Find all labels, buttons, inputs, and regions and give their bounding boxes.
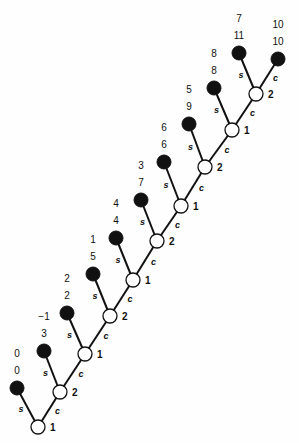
nodes (10, 46, 285, 434)
leaf-node (60, 306, 74, 320)
leaf-node (109, 231, 123, 245)
open-node-label: 1 (97, 349, 103, 360)
edge-label-s: s (93, 291, 98, 301)
edge-label-c: c (225, 145, 230, 155)
leaf-value-bottom: 11 (234, 30, 245, 41)
edge-label-c: c (151, 257, 156, 267)
edge-label-c: c (250, 108, 255, 118)
edge-label-s: s (164, 180, 169, 190)
open-node (103, 309, 117, 323)
open-node (225, 123, 239, 137)
leaf-value-bottom: 2 (64, 290, 70, 301)
leaf-value-bottom: 7 (138, 177, 144, 188)
leaf-node (37, 344, 51, 358)
leaf-value-top: 5 (186, 84, 192, 95)
edge-label-c: c (104, 331, 109, 341)
open-node (174, 199, 188, 213)
leaf-value-top: 10 (272, 19, 284, 30)
leaf-value-top: 2 (64, 273, 70, 284)
open-node (78, 347, 92, 361)
open-node-label: 2 (217, 162, 223, 173)
edge-label-s: s (67, 330, 72, 340)
open-node (198, 160, 212, 174)
open-node (249, 87, 263, 101)
leaf-value-bottom: 0 (14, 365, 20, 376)
leaf-value-top: 4 (113, 198, 119, 209)
open-node (53, 385, 67, 399)
leaf-value-top: 3 (138, 160, 144, 171)
leaf-value-bottom: 10 (272, 36, 284, 47)
edge-label-s: s (116, 255, 121, 265)
edge-label-s: s (140, 217, 145, 227)
leaf-value-top: 6 (161, 122, 167, 133)
leaf-node (157, 155, 171, 169)
tree-svg: cccccccccssssssssssc1212121212003−122514… (0, 0, 299, 443)
open-node-label: 2 (122, 311, 128, 322)
edge-label-c: c (175, 220, 180, 230)
edge-label-c: c (199, 183, 204, 193)
open-node-label: 1 (193, 201, 199, 212)
leaf-value-bottom: 9 (186, 101, 192, 112)
edge-label-c: c (79, 369, 84, 379)
leaf-value-bottom: 3 (41, 328, 47, 339)
leaf-value-bottom: 6 (161, 139, 167, 150)
open-node-label: 1 (145, 275, 151, 286)
leaf-value-top: 7 (236, 13, 242, 24)
leaf-value-top: 0 (14, 348, 20, 359)
open-node-label: 1 (244, 125, 250, 136)
edges (17, 53, 278, 427)
open-node-label: 1 (50, 422, 56, 433)
edge-label-s: s (239, 70, 244, 80)
open-node (150, 234, 164, 248)
leaf-value-bottom: 8 (211, 65, 217, 76)
leaf-node (182, 117, 196, 131)
leaf-node (86, 267, 100, 281)
leaf-node (134, 193, 148, 207)
open-node (31, 420, 45, 434)
leaf-node (271, 52, 285, 66)
open-node-label: 2 (268, 89, 274, 100)
edge-label-s: s (19, 404, 24, 414)
edge-label-c: c (273, 73, 278, 83)
open-node-label: 2 (72, 387, 78, 398)
leaf-value-bottom: 4 (113, 215, 119, 226)
open-node-label: 2 (169, 236, 175, 247)
edge-label-s: s (214, 105, 219, 115)
open-node (126, 273, 140, 287)
edge-label-c: c (128, 294, 133, 304)
leaf-value-bottom: 5 (90, 251, 96, 262)
leaf-node (10, 381, 24, 395)
leaf-value-top: 8 (211, 48, 217, 59)
leaf-node (207, 81, 221, 95)
edge-label-s: s (43, 368, 48, 378)
leaf-node (232, 46, 246, 60)
leaf-value-top: −1 (38, 311, 50, 322)
tree-diagram: cccccccccssssssssssc1212121212003−122514… (0, 0, 299, 443)
edge-label-s: s (188, 142, 193, 152)
leaf-value-top: 1 (90, 234, 96, 245)
edge-label-c: c (55, 406, 60, 416)
